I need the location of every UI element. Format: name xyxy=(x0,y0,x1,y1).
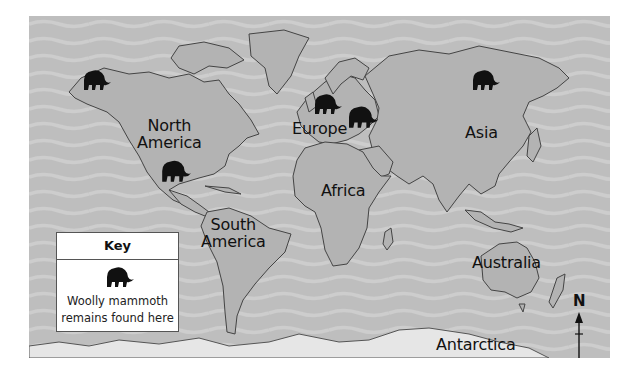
mammoth-icon xyxy=(159,158,191,184)
mammoth-icon xyxy=(470,68,500,92)
label-europe: Europe xyxy=(292,120,347,137)
mammoth-icon xyxy=(312,92,342,116)
label-north-america-line1: North xyxy=(137,117,202,134)
label-north-america-line2: America xyxy=(137,134,202,151)
label-africa: Africa xyxy=(321,182,365,199)
key-description-line1: Woolly mammoth xyxy=(57,293,178,310)
label-antarctica: Antarctica xyxy=(436,336,516,353)
key-description-line2: remains found here xyxy=(57,310,178,327)
label-south-america: South America xyxy=(201,216,266,250)
north-arrow-icon xyxy=(570,292,590,358)
key-description: Woolly mammoth remains found here xyxy=(57,293,178,327)
label-south-america-line2: America xyxy=(201,233,266,250)
key-title: Key xyxy=(57,233,178,260)
label-north-america: North America xyxy=(137,117,202,151)
label-australia: Australia xyxy=(472,254,541,271)
mammoth-icon xyxy=(104,265,134,289)
label-south-america-line1: South xyxy=(201,216,266,233)
map-key: Key Woolly mammoth remains found here xyxy=(56,232,179,332)
world-map: North America South America Europe Asia … xyxy=(29,16,610,358)
mammoth-icon xyxy=(345,104,379,130)
mammoth-icon xyxy=(81,68,111,92)
label-asia: Asia xyxy=(465,124,498,141)
compass: N xyxy=(570,292,590,358)
